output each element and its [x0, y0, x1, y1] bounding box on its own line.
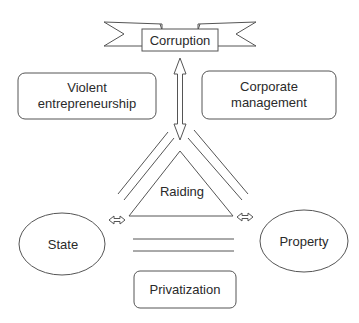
property-label: Property: [279, 234, 329, 249]
banner-label: Corruption: [150, 33, 211, 48]
left-double-arrow-icon: [109, 216, 125, 224]
corporate-management-box: Corporate management: [202, 71, 336, 119]
raiding-label: Raiding: [160, 184, 204, 199]
double-arrow-icon: [174, 58, 186, 140]
privatization-label: Privatization: [150, 282, 221, 297]
violent-line2: entrepreneurship: [38, 96, 136, 111]
right-small-double-arrow: [237, 213, 253, 221]
right-double-arrow-icon: [237, 213, 253, 221]
corruption-banner: Corruption: [104, 22, 256, 51]
corporate-line1: Corporate: [240, 79, 298, 94]
state-ellipse: State: [19, 213, 105, 275]
property-ellipse: Property: [260, 210, 348, 272]
privatization-box: Privatization: [134, 271, 236, 308]
violent-entrepreneurship-box: Violent entrepreneurship: [18, 73, 156, 119]
left-small-double-arrow: [109, 216, 125, 224]
corruption-raiding-arrow: [174, 58, 186, 140]
diagram-canvas: Corruption Violent entrepreneurship Corp…: [0, 0, 359, 323]
bottom-double-line: [133, 239, 234, 251]
violent-line1: Violent: [67, 80, 107, 95]
corporate-line2: management: [231, 95, 307, 110]
state-label: State: [48, 237, 78, 252]
